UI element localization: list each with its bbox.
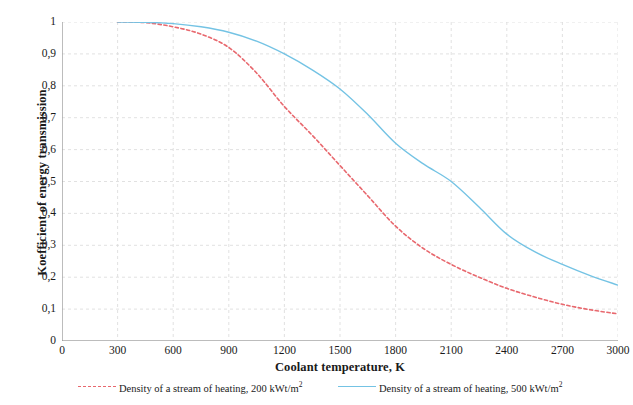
y-tick-label: 1 xyxy=(16,16,56,28)
series-line-0 xyxy=(118,22,618,314)
y-tick-label: 0,1 xyxy=(16,303,56,315)
series-line-1 xyxy=(118,22,618,285)
legend-swatch-solid-icon xyxy=(338,386,376,387)
x-tick-label: 1500 xyxy=(310,344,370,356)
x-tick-label: 300 xyxy=(88,344,148,356)
plot-canvas xyxy=(62,22,618,341)
x-tick-label: 2700 xyxy=(532,344,592,356)
x-tick-label: 900 xyxy=(199,344,259,356)
y-tick-label: 0,2 xyxy=(16,271,56,283)
legend-label-200: Density of a stream of heating, 200 kWt/… xyxy=(119,380,302,394)
legend-swatch-dashed-icon xyxy=(78,386,116,387)
y-tick-label: 0,5 xyxy=(16,176,56,188)
legend-label-500-sup: 2 xyxy=(559,380,563,389)
legend-label-200-sup: 2 xyxy=(299,380,303,389)
y-tick-label: 0,4 xyxy=(16,207,56,219)
x-tick-label: 1800 xyxy=(366,344,426,356)
legend-label-500: Density of a stream of heating, 500 kWt/… xyxy=(379,380,562,394)
x-tick-label: 1200 xyxy=(254,344,314,356)
legend-entry-500: Density of a stream of heating, 500 kWt/… xyxy=(338,380,562,394)
x-tick-label: 600 xyxy=(143,344,203,356)
x-axis-title: Coolant temperature, K xyxy=(62,360,618,375)
x-tick-label: 3000 xyxy=(588,344,633,356)
y-tick-label: 0,7 xyxy=(16,112,56,124)
x-tick-label: 0 xyxy=(32,344,92,356)
y-tick-label: 0,6 xyxy=(16,144,56,156)
x-tick-label: 2100 xyxy=(421,344,481,356)
legend-label-200-text: Density of a stream of heating, 200 kWt/… xyxy=(119,383,299,394)
chart-legend: Density of a stream of heating, 200 kWt/… xyxy=(0,378,633,404)
chart-figure: Koefficient of energy transmission 00,10… xyxy=(0,0,633,405)
x-tick-label: 2400 xyxy=(477,344,537,356)
y-tick-label: 0,8 xyxy=(16,80,56,92)
y-tick-label: 0,3 xyxy=(16,239,56,251)
plot-area xyxy=(62,22,618,341)
legend-entry-200: Density of a stream of heating, 200 kWt/… xyxy=(78,380,302,394)
y-tick-label: 0,9 xyxy=(16,48,56,60)
legend-label-500-text: Density of a stream of heating, 500 kWt/… xyxy=(379,383,559,394)
